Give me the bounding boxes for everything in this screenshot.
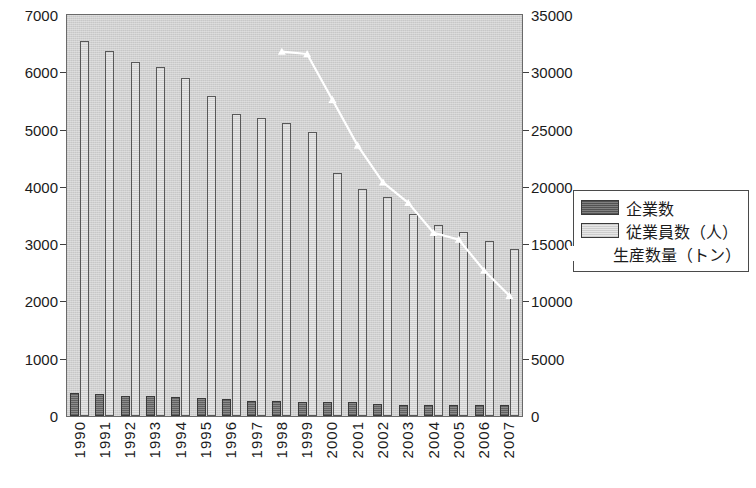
x-axis-tick-label: 2004 (425, 421, 442, 458)
x-axis-tick-label: 1992 (121, 421, 138, 458)
legend-item: 生産数量（トン） (581, 242, 741, 265)
production-line-series (67, 15, 522, 416)
right-axis-tick-mark (523, 187, 529, 188)
x-axis-tick-label: 2000 (323, 421, 340, 458)
x-axis-tick-label: 2001 (349, 421, 366, 458)
x-axis-tick-label: 1996 (222, 421, 239, 458)
right-axis-tick-mark (523, 72, 529, 73)
x-axis-tick-label: 1993 (146, 421, 163, 458)
x-axis-tick-label: 1995 (197, 421, 214, 458)
x-axis-tick-label: 2007 (500, 421, 517, 458)
x-axis-tick-label: 1990 (71, 421, 88, 458)
left-axis-tick-label: 0 (50, 408, 58, 425)
left-axis-tick-mark (60, 244, 66, 245)
left-axis-tick-label: 4000 (25, 178, 58, 195)
x-axis-tick-label: 1998 (273, 421, 290, 458)
left-axis-tick-mark (60, 72, 66, 73)
x-axis-labels: 1990199119921993199419951996199719981999… (66, 419, 523, 488)
right-axis-tick-label: 30000 (531, 64, 573, 81)
right-axis-tick-mark (523, 244, 529, 245)
legend-item: 企業数 (581, 196, 741, 219)
left-axis-tick-label: 6000 (25, 64, 58, 81)
left-axis-tick-mark (60, 359, 66, 360)
x-axis-tick-label: 2006 (475, 421, 492, 458)
left-axis-tick-mark (60, 187, 66, 188)
right-axis-tick-label: 35000 (531, 7, 573, 24)
right-axis-tick-mark (523, 359, 529, 360)
x-axis-tick-label: 2003 (399, 421, 416, 458)
legend-item-label: 生産数量（トン） (613, 242, 741, 266)
plot-area (66, 14, 523, 417)
right-axis-tick-label: 0 (531, 408, 539, 425)
right-axis-tick-label: 25000 (531, 121, 573, 138)
right-axis-tick-label: 5000 (531, 350, 564, 367)
right-axis-tick-label: 15000 (531, 236, 573, 253)
x-axis-tick-label: 1991 (96, 421, 113, 458)
x-axis-tick-label: 2005 (450, 421, 467, 458)
x-axis-tick-label: 1997 (248, 421, 265, 458)
right-axis-tick-mark (523, 301, 529, 302)
right-axis-tick-label: 20000 (531, 178, 573, 195)
left-axis-tick-mark (60, 301, 66, 302)
chart-root: 01000200030004000500060007000 0500010000… (0, 0, 756, 488)
legend-swatch-icon (581, 200, 619, 215)
left-axis-tick-label: 2000 (25, 293, 58, 310)
x-axis-tick-label: 1999 (298, 421, 315, 458)
left-axis-tick-mark (60, 130, 66, 131)
left-axis-tick-label: 3000 (25, 236, 58, 253)
legend-item: 従業員数（人） (581, 219, 741, 242)
x-axis-tick-label: 2002 (374, 421, 391, 458)
right-axis-tick-label: 10000 (531, 293, 573, 310)
legend-item-label: 企業数 (626, 196, 674, 220)
legend-swatch-icon (581, 223, 619, 238)
left-axis-labels: 01000200030004000500060007000 (0, 0, 58, 488)
left-axis-tick-label: 7000 (25, 7, 58, 24)
left-axis-tick-label: 1000 (25, 350, 58, 367)
legend-item-label: 従業員数（人） (626, 219, 738, 243)
left-axis-tick-label: 5000 (25, 121, 58, 138)
right-axis-tick-mark (523, 130, 529, 131)
x-axis-tick-label: 1994 (172, 421, 189, 458)
production-line-path (282, 52, 510, 296)
legend-swatch-icon (568, 246, 606, 261)
production-line-markers (278, 48, 513, 299)
chart-legend: 企業数従業員数（人）生産数量（トン） (573, 190, 749, 272)
